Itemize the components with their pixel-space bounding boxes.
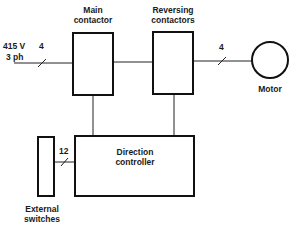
input-conductors-label: 4 xyxy=(39,41,44,51)
direction-controller-label: Direction controller xyxy=(110,147,160,167)
motor-conductors-label: 4 xyxy=(219,42,224,52)
input-voltage-label: 415 V xyxy=(3,41,25,51)
input-phase-label: 3 ph xyxy=(6,52,23,62)
reversing-contactors-block xyxy=(152,31,194,95)
external-switches-label: External switches xyxy=(22,204,62,224)
motor-label: Motor xyxy=(254,84,286,94)
external-switches-block xyxy=(37,136,55,197)
switch-conductors-label: 12 xyxy=(59,146,68,156)
main-contactor-block xyxy=(72,32,114,96)
main-contactor-label: Main contactor xyxy=(72,5,114,25)
motor-symbol xyxy=(252,42,288,78)
reversing-contactors-label: Reversing contactors xyxy=(148,5,198,25)
